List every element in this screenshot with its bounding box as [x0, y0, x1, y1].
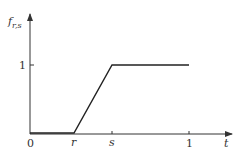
x-tick-label-1: 1	[186, 137, 193, 150]
chart: fr,s 1 0 r s 1 t	[0, 0, 242, 152]
y-axis-label: fr,s	[7, 15, 22, 30]
function-line	[30, 65, 189, 133]
x-axis-label: t	[224, 137, 229, 150]
origin-label: 0	[27, 137, 34, 150]
y-tick-label-1: 1	[19, 59, 26, 72]
x-tick-label-s: s	[109, 136, 115, 149]
x-tick-label-r: r	[71, 136, 77, 149]
